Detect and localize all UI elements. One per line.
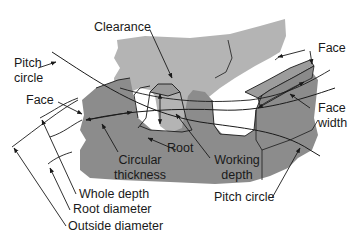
label-face-width-line2: width [318,116,347,130]
label-working-depth-line2: depth [209,168,265,182]
label-whole-depth: Whole depth [79,187,149,201]
label-face-left: Face [26,93,54,107]
label-outside-diameter: Outside diameter [68,219,163,233]
label-root: Root [167,141,193,155]
label-face-right: Face [318,41,346,55]
label-circular-thickness-line1: Circular [112,153,168,167]
label-root-diameter: Root diameter [73,202,152,216]
label-circular-thickness-line2: thickness [108,168,172,182]
label-pitch-circle-bottom: Pitch circle [214,190,274,204]
label-clearance: Clearance [94,20,151,34]
label-pitch-circle-left-line2: circle [14,71,43,85]
gear-diagram [0,0,355,239]
label-working-depth-line1: Working [209,153,265,167]
label-pitch-circle-left-line1: Pitch [14,56,42,70]
label-face-width-line1: Face [318,101,346,115]
